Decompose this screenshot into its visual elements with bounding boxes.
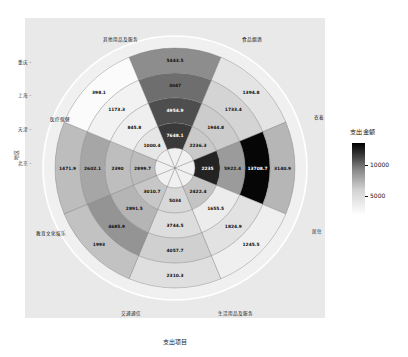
cell-value-label: 1993 [93,242,105,247]
cell-value-label: 1173.3 [108,107,125,112]
legend-title: 支出金额 [350,127,376,136]
legend-tick-mark [365,196,368,197]
sector-axis-label: 其他用品及服务 [103,36,138,42]
cell-value-label: 4057.7 [167,248,184,253]
sector-axis-label: 交通通信 [121,310,141,316]
cell-value-label: 1824.9 [225,224,242,229]
cell-value-label: 1245.5 [243,242,260,247]
legend-tick-mark [365,165,368,166]
cell-value-label: 1394.8 [243,90,260,95]
legend-tick-label: 5000 [370,192,385,199]
region-tick-label: 北京 - [18,160,31,166]
cell-value-label: 13708.7 [248,166,268,171]
cell-value-label: 1655.5 [207,206,224,211]
cell-value-label: 2390 [111,166,123,171]
sector-axis-label: 医疗保健 [50,116,70,122]
region-tick-label: 上海 - [18,92,31,98]
cell-value-label: 5922.4 [224,166,241,171]
chart-canvas: 7648.14954.930475443.52236.31944.81733.4… [0,0,408,357]
cell-value-label: 1733.4 [225,107,242,112]
cell-value-label: 2891.5 [126,206,143,211]
cell-value-label: 2310.3 [167,273,184,278]
cell-value-label: 845.8 [127,125,141,130]
cell-value-label: 3140.9 [274,166,291,171]
cell-value-label: 5443.5 [167,58,184,63]
sector-axis-label: 教育文化娱乐 [36,230,66,236]
sector-axis-label: 居住 [312,228,322,234]
cell-value-label: 4685.9 [108,224,125,229]
sector-axis-label: 衣着 [314,114,324,120]
cell-value-label: 2422.4 [190,189,207,194]
region-tick-label: 重庆 - [18,59,31,65]
cell-value-label: 2899.7 [134,166,151,171]
cell-value-label: 3047 [169,83,181,88]
cell-value-label: 398.1 [92,90,106,95]
cell-value-label: 1471.9 [59,166,76,171]
legend-colorbar [352,143,374,215]
sector-axis-label: 生活用品及服务 [218,310,253,316]
cell-value-label: 1944.8 [207,125,224,130]
cell-value-label: 2235 [201,166,213,171]
legend-tick-label: 10000 [370,161,389,168]
cell-value-label: 3010.7 [144,189,161,194]
cell-value-label: 4954.9 [167,108,184,113]
cell-value-label: 2602.1 [84,166,101,171]
x-axis-title: 支出项目 [163,337,187,346]
cell-value-label: 5034 [169,198,181,203]
cell-value-label: 7648.1 [167,133,184,138]
region-tick-label: 天津 - [18,126,31,132]
cell-value-label: 3744.5 [167,223,184,228]
cell-value-label: 2236.3 [190,143,207,148]
y-axis-title: 地区 [12,150,19,160]
polar-heatmap-svg: 7648.14954.930475443.52236.31944.81733.4… [0,0,408,357]
sector-axis-label: 食品烟酒 [242,36,262,42]
cell-value-label: 1000.4 [144,143,161,148]
